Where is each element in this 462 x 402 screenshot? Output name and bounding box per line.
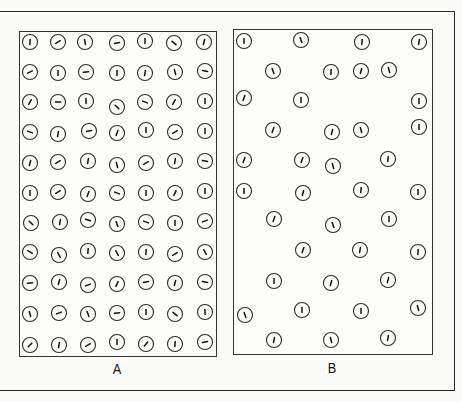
oriented-circle-icon	[198, 154, 213, 169]
oriented-circle-icon	[237, 153, 252, 168]
oriented-circle-icon	[110, 335, 125, 350]
oriented-circle-icon	[381, 273, 396, 288]
oriented-circle-icon	[198, 305, 213, 320]
oriented-circle-icon	[139, 123, 154, 138]
oriented-circle-icon	[167, 95, 182, 110]
oriented-circle-icon	[23, 35, 38, 50]
oriented-circle-icon	[81, 213, 96, 228]
oriented-circle-icon	[110, 246, 125, 261]
oriented-circle-icon	[411, 301, 426, 316]
oriented-circle-icon	[198, 335, 213, 350]
oriented-circle-icon	[198, 245, 213, 260]
oriented-circle-icon	[267, 333, 282, 348]
oriented-circle-icon	[139, 305, 154, 320]
oriented-circle-icon	[294, 33, 309, 48]
oriented-circle-icon	[325, 125, 340, 140]
oriented-circle-icon	[354, 183, 369, 198]
oriented-circle-icon	[139, 156, 154, 171]
oriented-circle-icon	[138, 95, 153, 110]
oriented-circle-icon	[110, 100, 125, 115]
oriented-circle-icon	[51, 155, 66, 170]
oriented-circle-icon	[294, 93, 309, 108]
oriented-circle-icon	[24, 216, 39, 231]
oriented-circle-icon	[23, 65, 38, 80]
oriented-circle-icon	[168, 276, 183, 291]
oriented-circle-icon	[355, 35, 370, 50]
oriented-circle-icon	[411, 185, 426, 200]
oriented-circle-icon	[51, 127, 66, 142]
panel-b-label: B	[328, 359, 337, 376]
oriented-circle-icon	[110, 306, 125, 321]
oriented-circle-icon	[51, 95, 66, 110]
oriented-circle-icon	[23, 338, 38, 353]
oriented-circle-icon	[198, 94, 213, 109]
oriented-circle-icon	[138, 66, 153, 81]
oriented-circle-icon	[296, 186, 311, 201]
oriented-circle-icon	[110, 158, 125, 173]
oriented-circle-icon	[139, 215, 154, 230]
oriented-circle-icon	[78, 35, 93, 50]
oriented-circle-icon	[138, 34, 153, 49]
oriented-circle-icon	[51, 185, 66, 200]
oriented-circle-icon	[139, 245, 154, 260]
oriented-circle-icon	[23, 125, 38, 140]
oriented-circle-icon	[81, 278, 96, 293]
oriented-circle-icon	[295, 153, 310, 168]
oriented-circle-icon	[82, 124, 97, 139]
oriented-circle-icon	[267, 212, 282, 227]
oriented-circle-icon	[79, 94, 94, 109]
oriented-circle-icon	[382, 212, 397, 227]
oriented-circle-icon	[353, 243, 368, 258]
oriented-circle-icon	[266, 123, 281, 138]
oriented-circle-icon	[381, 331, 396, 346]
panel-a-circles	[23, 34, 213, 353]
oriented-circle-icon	[81, 307, 96, 322]
oriented-circle-icon	[81, 154, 96, 169]
oriented-circle-icon	[198, 64, 213, 79]
oriented-circle-icon	[326, 218, 341, 233]
oriented-circle-icon	[237, 34, 252, 49]
oriented-circle-icon	[198, 214, 213, 229]
oriented-circle-icon	[53, 215, 68, 230]
oriented-circle-icon	[110, 66, 125, 81]
oriented-circle-icon	[110, 36, 125, 51]
oriented-circle-icon	[168, 247, 183, 262]
panel-a-label: A	[113, 360, 122, 377]
oriented-circle-icon	[81, 244, 96, 259]
oriented-circle-icon	[168, 186, 183, 201]
oriented-circle-icon	[324, 65, 339, 80]
oriented-circle-icon	[168, 216, 183, 231]
circle-marks-layer	[0, 0, 462, 402]
oriented-circle-icon	[354, 304, 369, 319]
oriented-circle-icon	[237, 184, 252, 199]
oriented-circle-icon	[354, 123, 369, 138]
oriented-circle-icon	[23, 307, 38, 322]
oriented-circle-icon	[412, 120, 427, 135]
oriented-circle-icon	[23, 186, 38, 201]
oriented-circle-icon	[295, 303, 310, 318]
oriented-circle-icon	[167, 36, 182, 51]
oriented-circle-icon	[326, 159, 341, 174]
oriented-circle-icon	[381, 152, 396, 167]
oriented-circle-icon	[168, 125, 183, 140]
oriented-circle-icon	[266, 64, 281, 79]
oriented-circle-icon	[110, 277, 125, 292]
oriented-circle-icon	[23, 245, 38, 260]
oriented-circle-icon	[354, 64, 369, 79]
oriented-circle-icon	[411, 245, 426, 260]
oriented-circle-icon	[168, 65, 183, 80]
oriented-circle-icon	[23, 156, 38, 171]
oriented-circle-icon	[23, 95, 38, 110]
oriented-circle-icon	[197, 35, 212, 50]
oriented-circle-icon	[238, 308, 253, 323]
oriented-circle-icon	[267, 274, 282, 289]
oriented-circle-icon	[52, 306, 67, 321]
oriented-circle-icon	[23, 276, 38, 291]
oriented-circle-icon	[198, 275, 213, 290]
oriented-circle-icon	[110, 126, 125, 141]
oriented-circle-icon	[412, 35, 427, 50]
oriented-circle-icon	[139, 186, 154, 201]
oriented-circle-icon	[168, 307, 183, 322]
oriented-circle-icon	[324, 333, 339, 348]
oriented-circle-icon	[52, 275, 67, 290]
